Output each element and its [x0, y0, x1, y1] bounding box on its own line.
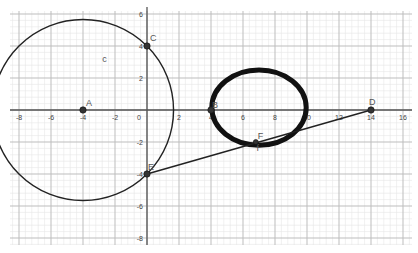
x-tick-label: 2: [177, 114, 181, 121]
point-label-c: C: [150, 33, 157, 43]
x-tick-label: 0: [137, 114, 141, 121]
y-tick-label: -4: [137, 171, 143, 178]
x-tick-label: 16: [399, 114, 407, 121]
x-tick-label: -8: [16, 114, 22, 121]
x-tick-label: -6: [48, 114, 54, 121]
point-label-e: E: [148, 162, 154, 172]
x-tick-label: 14: [367, 114, 375, 121]
x-tick-label: -2: [112, 114, 118, 121]
y-tick-label: -2: [137, 139, 143, 146]
y-tick-label: 2: [139, 75, 143, 82]
point-label-d: D: [369, 97, 376, 107]
point-c[interactable]: [144, 43, 150, 49]
x-tick-label: 8: [273, 114, 277, 121]
point-label-a: A: [86, 98, 92, 108]
y-tick-label: -6: [137, 203, 143, 210]
point-label-f: F: [258, 131, 264, 141]
y-tick-label: 4: [139, 43, 143, 50]
curve-c-label: c: [102, 54, 107, 64]
points[interactable]: ABCDEF: [80, 33, 376, 177]
x-tick-label: 6: [241, 114, 245, 121]
y-tick-label: 6: [139, 11, 143, 18]
x-tick-label: -4: [80, 114, 86, 121]
y-tick-label: -8: [137, 235, 143, 242]
graph-svg[interactable]: -8-6-4-20246810121416642-2-4-6-8 cf ABCD…: [0, 0, 418, 253]
point-d[interactable]: [368, 107, 374, 113]
graphing-canvas[interactable]: -8-6-4-20246810121416642-2-4-6-8 cf ABCD…: [0, 0, 418, 253]
point-label-b: B: [212, 100, 218, 110]
